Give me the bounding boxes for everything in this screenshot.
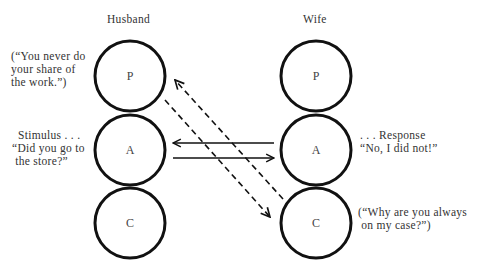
husband-adult-label: A: [126, 143, 135, 157]
wife-adult-label: A: [312, 143, 321, 157]
wife-parent-label: P: [313, 69, 320, 83]
wife-ego-states: P A C: [281, 41, 351, 258]
husband-child-label: C: [126, 216, 134, 230]
husband-ego-states: P A C: [95, 41, 165, 258]
wife-child-to-husband-parent-arrow: [175, 80, 283, 199]
wife-child-label: C: [312, 216, 320, 230]
husband-parent-label: P: [127, 69, 134, 83]
ego-state-diagram: P A C P A C: [0, 0, 478, 273]
